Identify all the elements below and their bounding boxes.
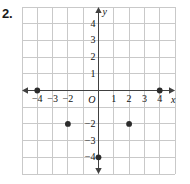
x-axis-tick-label: 2 xyxy=(127,94,132,104)
origin-label: O xyxy=(88,94,95,105)
x-axis-tick-label: 1 xyxy=(111,94,116,104)
x-axis-label: x xyxy=(171,94,175,105)
x-axis-tick-label: 3 xyxy=(142,94,147,104)
y-axis-label: y xyxy=(103,6,107,17)
data-point xyxy=(96,154,102,160)
y-axis-tick-label: −3 xyxy=(85,136,96,146)
x-axis-tick-label: 4 xyxy=(157,94,162,104)
data-point xyxy=(126,121,132,127)
x-axis-tick-label: −4 xyxy=(32,94,43,104)
coordinate-plane: −4−3−212344321−2−3−4Oxy xyxy=(22,7,175,174)
x-axis-tick-label: −3 xyxy=(47,94,58,104)
y-axis-tick-label: 2 xyxy=(91,52,96,62)
y-axis-tick-label: 3 xyxy=(91,35,96,45)
data-point xyxy=(65,121,71,127)
y-axis-tick-label: 4 xyxy=(91,19,96,29)
y-axis-tick-label: −2 xyxy=(85,119,96,129)
grid-surface: −4−3−212344321−2−3−4Oxy xyxy=(22,7,175,174)
plotted-points xyxy=(22,7,175,174)
y-axis-tick-label: 1 xyxy=(91,69,96,79)
x-axis-tick-label: −2 xyxy=(63,94,74,104)
exercise-number: 2. xyxy=(2,6,12,21)
y-axis-tick-label: −4 xyxy=(85,152,96,162)
